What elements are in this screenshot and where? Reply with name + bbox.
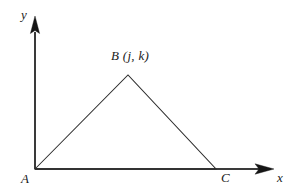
figure-canvas <box>0 0 297 195</box>
triangle-abc <box>35 75 216 169</box>
vertex-c-label: C <box>221 171 230 184</box>
y-axis-arrowhead <box>30 16 39 34</box>
y-axis-label: y <box>21 8 27 21</box>
geometry-figure: y x A B (j, k) C <box>0 0 297 195</box>
vertex-b-label: B (j, k) <box>111 49 149 62</box>
vertex-a-label: A <box>21 172 29 185</box>
x-axis-label: x <box>277 171 283 184</box>
